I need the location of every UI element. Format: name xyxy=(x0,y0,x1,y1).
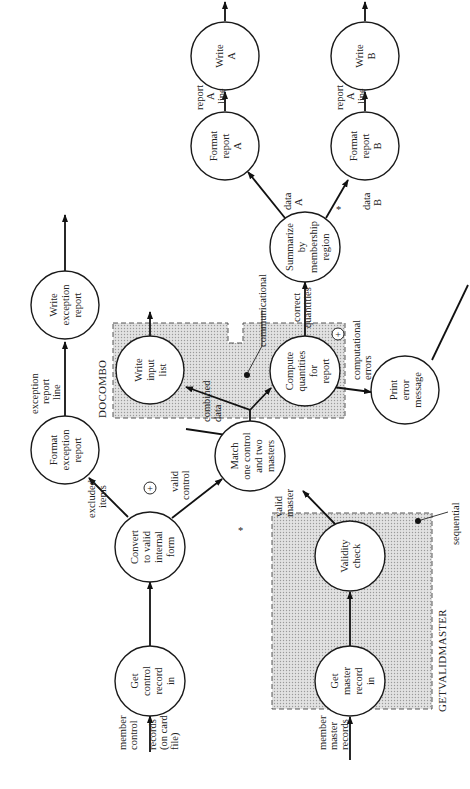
svg-text:by: by xyxy=(296,241,307,252)
svg-text:data: data xyxy=(361,192,372,210)
svg-text:report: report xyxy=(194,85,205,110)
svg-text:Format: Format xyxy=(48,435,59,465)
node-print-error-message: Print error message xyxy=(371,356,439,424)
iteration-mark-summarize: * xyxy=(336,204,341,215)
svg-text:error: error xyxy=(400,379,411,400)
group-title-getvalidmaster: GETVALIDMASTER xyxy=(436,609,448,712)
label-valid-control: valid control xyxy=(169,470,191,500)
svg-text:in: in xyxy=(365,676,376,685)
svg-text:record: record xyxy=(153,667,164,695)
svg-text:master: master xyxy=(341,667,352,695)
svg-text:excluded: excluded xyxy=(86,479,97,518)
svg-text:Write: Write xyxy=(214,44,225,68)
svg-text:A: A xyxy=(345,92,356,100)
svg-text:in: in xyxy=(165,676,176,685)
svg-text:Summarize: Summarize xyxy=(284,223,295,271)
svg-text:+: + xyxy=(335,329,341,340)
svg-text:quantities: quantities xyxy=(302,287,313,328)
svg-text:+: + xyxy=(147,483,153,494)
svg-text:control: control xyxy=(180,470,191,500)
label-correct-quantities: correct quantities xyxy=(291,287,313,328)
node-write-b: Write B xyxy=(331,22,399,90)
svg-text:check: check xyxy=(351,543,362,568)
svg-text:Write: Write xyxy=(354,44,365,68)
svg-text:form: form xyxy=(165,537,176,557)
svg-text:to valid: to valid xyxy=(141,530,152,563)
svg-text:Format: Format xyxy=(348,131,359,161)
svg-text:master: master xyxy=(328,722,339,750)
svg-text:correct: correct xyxy=(291,293,302,322)
svg-text:line: line xyxy=(356,88,367,104)
svg-text:errors: errors xyxy=(362,356,373,381)
sequential-marker xyxy=(415,518,421,524)
node-get-control-record: Get control record in xyxy=(115,646,185,716)
node-get-master-record: Get master record in xyxy=(315,646,385,716)
annotation-communicational: communicational xyxy=(257,274,268,347)
label-valid-master: valid master xyxy=(273,489,295,517)
svg-text:Write: Write xyxy=(48,293,59,317)
svg-text:combined: combined xyxy=(201,380,212,422)
svg-text:and two: and two xyxy=(253,439,264,473)
svg-text:Format: Format xyxy=(208,131,219,161)
svg-text:Write: Write xyxy=(133,358,144,382)
svg-text:exception: exception xyxy=(60,284,71,326)
svg-text:one control: one control xyxy=(241,432,252,480)
svg-text:records: records xyxy=(147,719,158,750)
svg-text:Convert: Convert xyxy=(129,530,140,564)
svg-text:file): file) xyxy=(169,732,181,750)
node-compute-quantities: Compute quantities for report xyxy=(270,336,340,406)
svg-text:region: region xyxy=(320,233,331,261)
label-data-b: data B xyxy=(361,192,383,210)
svg-text:Get: Get xyxy=(329,673,340,688)
label-report-a-line-b: report A line xyxy=(334,85,367,110)
svg-text:report: report xyxy=(360,133,371,158)
structure-chart-diagram: DOCOMBO communicational + GETVALIDMASTER… xyxy=(0,0,470,789)
svg-text:member: member xyxy=(117,715,128,750)
svg-text:report: report xyxy=(72,292,83,317)
node-match-control-masters: Match one control and two masters xyxy=(215,421,285,491)
label-member-master-records: member master records xyxy=(317,715,350,750)
node-write-exception-report: Write exception report xyxy=(31,271,99,339)
svg-text:line: line xyxy=(51,384,62,400)
svg-text:message: message xyxy=(412,372,423,408)
svg-text:items: items xyxy=(97,485,108,508)
svg-text:input: input xyxy=(145,359,156,381)
node-format-report-b: Format report B xyxy=(331,112,399,180)
svg-text:member: member xyxy=(317,715,328,750)
svg-text:A: A xyxy=(226,52,237,60)
node-format-report-a: Format report A xyxy=(191,112,259,180)
node-format-exception-report: Format exception report xyxy=(31,416,99,484)
xor-symbol-compute: + xyxy=(332,328,344,340)
svg-text:Match: Match xyxy=(229,442,240,470)
node-write-a: Write A xyxy=(191,22,259,90)
svg-text:internal: internal xyxy=(153,531,164,563)
annotation-sequential: sequential xyxy=(450,502,461,545)
label-member-control-records: member control records (on card file) xyxy=(117,715,181,750)
label-exception-report-line: exception report line xyxy=(29,372,62,414)
svg-text:A: A xyxy=(205,92,216,100)
svg-text:A: A xyxy=(293,198,304,206)
svg-text:data: data xyxy=(282,192,293,210)
svg-text:computational: computational xyxy=(351,320,362,380)
svg-text:Compute: Compute xyxy=(284,351,295,390)
node-write-input-list: Write input list xyxy=(116,336,184,404)
svg-text:Validity: Validity xyxy=(339,539,350,573)
iteration-mark-match: * xyxy=(238,525,243,536)
svg-text:membership: membership xyxy=(308,221,319,273)
svg-text:report: report xyxy=(40,379,51,404)
svg-text:B: B xyxy=(372,199,383,206)
svg-text:B: B xyxy=(366,52,377,59)
edge-print-out xyxy=(432,285,468,360)
node-convert-valid-form: Convert to valid internal form xyxy=(115,512,185,582)
svg-text:line: line xyxy=(216,88,227,104)
svg-text:record: record xyxy=(353,667,364,695)
svg-text:report: report xyxy=(72,437,83,462)
svg-text:master: master xyxy=(284,489,295,517)
svg-text:list: list xyxy=(157,364,168,377)
svg-text:report: report xyxy=(320,358,331,383)
svg-text:quantities: quantities xyxy=(296,351,307,392)
svg-text:report: report xyxy=(334,85,345,110)
svg-text:control: control xyxy=(128,720,139,750)
svg-text:Print: Print xyxy=(388,380,399,401)
xor-symbol-convert: + xyxy=(144,482,156,494)
